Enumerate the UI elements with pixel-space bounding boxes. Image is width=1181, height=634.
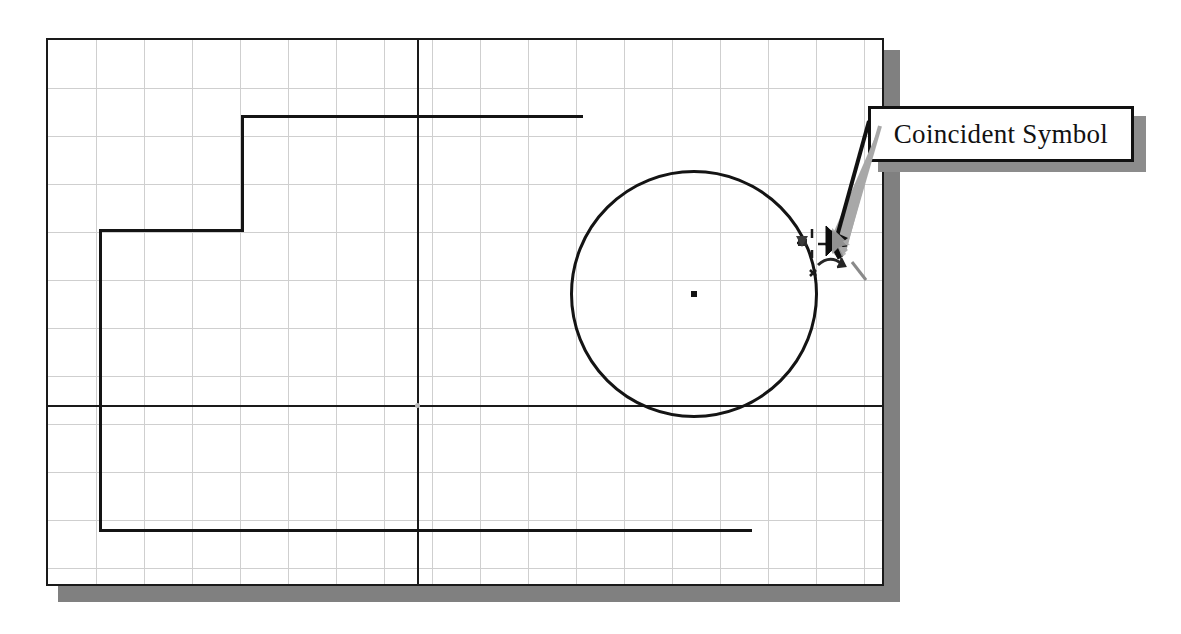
gridline-horizontal bbox=[48, 472, 882, 473]
gridline-horizontal bbox=[48, 136, 882, 137]
gridline-vertical bbox=[96, 40, 97, 584]
profile-line-bottom-horizontal[interactable] bbox=[99, 529, 752, 532]
gridline-vertical bbox=[144, 40, 145, 584]
gridline-horizontal bbox=[48, 232, 882, 233]
gridline-vertical bbox=[720, 40, 721, 584]
gridline-vertical bbox=[816, 40, 817, 584]
sketch-geometry bbox=[48, 40, 882, 584]
centerline-vertical[interactable] bbox=[417, 40, 419, 584]
gridline-vertical bbox=[480, 40, 481, 584]
gridline-horizontal bbox=[48, 88, 882, 89]
gridline-vertical bbox=[192, 40, 193, 584]
circle-center-point[interactable] bbox=[691, 291, 697, 297]
gridline-vertical bbox=[864, 40, 865, 584]
gridline-vertical bbox=[240, 40, 241, 584]
screenshot-root: Coincident Symbol bbox=[0, 0, 1181, 634]
gridline-vertical bbox=[336, 40, 337, 584]
gridline-vertical bbox=[576, 40, 577, 584]
gridline-horizontal bbox=[48, 184, 882, 185]
gridline-vertical bbox=[288, 40, 289, 584]
gridline-vertical bbox=[672, 40, 673, 584]
sketch-origin-point[interactable] bbox=[415, 403, 420, 408]
gridline-horizontal bbox=[48, 328, 882, 329]
sketch-grid bbox=[48, 40, 882, 584]
gridline-horizontal bbox=[48, 424, 882, 425]
centerline-horizontal[interactable] bbox=[48, 405, 882, 407]
sketch-drawing-area[interactable] bbox=[46, 38, 884, 586]
gridline-horizontal bbox=[48, 568, 882, 569]
gridline-vertical bbox=[528, 40, 529, 584]
profile-line-left-vertical[interactable] bbox=[99, 229, 102, 532]
sketched-circle[interactable] bbox=[570, 170, 818, 418]
gridline-vertical bbox=[624, 40, 625, 584]
profile-line-step-horizontal[interactable] bbox=[99, 229, 244, 232]
profile-line-top-horizontal[interactable] bbox=[241, 115, 583, 118]
gridline-vertical bbox=[768, 40, 769, 584]
gridline-vertical bbox=[432, 40, 433, 584]
gridline-horizontal bbox=[48, 376, 882, 377]
coincident-symbol-callout: Coincident Symbol bbox=[868, 106, 1134, 162]
gridline-horizontal bbox=[48, 520, 882, 521]
gridline-vertical bbox=[384, 40, 385, 584]
callout-label: Coincident Symbol bbox=[894, 119, 1108, 150]
profile-line-step-vertical[interactable] bbox=[241, 115, 244, 232]
gridline-horizontal bbox=[48, 280, 882, 281]
